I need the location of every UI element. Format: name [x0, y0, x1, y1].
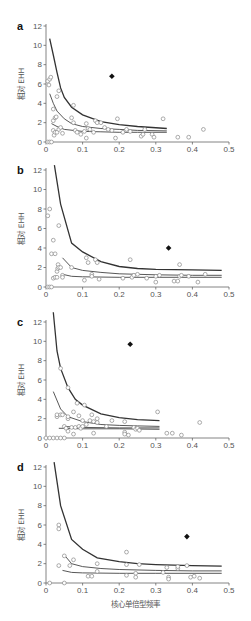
- y-tick-label: 0: [38, 138, 43, 147]
- data-point: [81, 419, 85, 423]
- y-axis-title: 相对 EHH: [16, 68, 26, 100]
- data-point: [103, 126, 107, 130]
- data-point: [83, 403, 87, 407]
- y-tick-label: 4: [38, 540, 43, 549]
- data-point: [88, 419, 92, 423]
- threshold-curve-middle: [64, 555, 221, 571]
- data-point: [90, 574, 94, 578]
- data-point: [202, 127, 206, 131]
- y-tick-label: 8: [38, 205, 43, 214]
- data-point: [187, 135, 191, 139]
- y-tick-label: 2: [38, 559, 43, 568]
- data-point: [44, 436, 48, 440]
- x-tick-label: 0.5: [223, 586, 235, 595]
- x-tick-label: 0: [44, 586, 49, 595]
- data-point: [57, 523, 61, 527]
- threshold-curve-upper: [53, 312, 159, 420]
- data-point: [136, 272, 140, 276]
- data-point: [95, 121, 99, 125]
- x-tick-label: 0.2: [114, 586, 126, 595]
- y-tick-label: 8: [38, 356, 43, 365]
- data-point: [137, 428, 141, 432]
- panel-d: d02468101200.10.20.30.40.5相对 EHH: [16, 461, 235, 595]
- data-point: [192, 574, 196, 578]
- data-point: [72, 121, 76, 125]
- data-point: [161, 571, 165, 575]
- data-point: [180, 433, 184, 437]
- data-point: [57, 527, 61, 531]
- data-point: [48, 436, 52, 440]
- x-tick-label: 0: [44, 290, 49, 299]
- data-point: [66, 386, 70, 390]
- data-point: [110, 129, 114, 133]
- data-point: [99, 121, 103, 125]
- x-tick-label: 0.4: [187, 145, 199, 154]
- data-point: [48, 581, 52, 585]
- highlighted-point-diamond-icon: [184, 534, 190, 540]
- data-point: [47, 83, 51, 87]
- data-point: [68, 564, 72, 568]
- highlighted-point-diamond-icon: [166, 245, 172, 251]
- data-point: [84, 122, 88, 126]
- data-point: [161, 117, 165, 121]
- data-point: [121, 276, 125, 280]
- y-tick-label: 2: [38, 263, 43, 272]
- y-tick-label: 0: [38, 579, 43, 588]
- data-point: [196, 280, 200, 284]
- data-point: [88, 127, 92, 131]
- data-point: [70, 266, 74, 270]
- data-point: [66, 429, 70, 433]
- data-point: [86, 261, 90, 265]
- y-tick-label: 2: [38, 414, 43, 423]
- y-tick-label: 8: [38, 60, 43, 69]
- y-tick-label: 0: [38, 434, 43, 443]
- y-tick-label: 12: [33, 318, 42, 327]
- x-tick-label: 0.1: [77, 145, 89, 154]
- data-point: [123, 420, 127, 424]
- data-point: [50, 252, 54, 256]
- x-tick-label: 0.5: [223, 145, 235, 154]
- x-tick-label: 0.2: [114, 145, 126, 154]
- data-point: [75, 401, 79, 405]
- data-point: [152, 135, 156, 139]
- x-tick-label: 0.3: [150, 441, 162, 450]
- data-point: [106, 127, 110, 131]
- x-tick-label: 0.5: [223, 441, 235, 450]
- data-point: [137, 563, 141, 567]
- y-axis-title: 相对 EHH: [16, 509, 26, 541]
- data-point: [165, 431, 169, 435]
- data-point: [189, 575, 193, 579]
- data-point: [54, 115, 58, 119]
- y-tick-label: 12: [33, 22, 42, 31]
- figure: a02468101200.10.20.30.40.5相对 EHH b024681…: [0, 0, 251, 621]
- x-tick-label: 0.3: [150, 290, 162, 299]
- y-tick-label: 8: [38, 501, 43, 510]
- data-point: [165, 566, 169, 570]
- data-point: [55, 275, 59, 279]
- data-point: [92, 420, 96, 424]
- x-tick-label: 0.3: [150, 145, 162, 154]
- data-point: [79, 132, 83, 136]
- data-point: [53, 252, 57, 256]
- data-point: [125, 563, 129, 567]
- data-point: [125, 573, 129, 577]
- data-point: [132, 273, 136, 277]
- y-tick-label: 4: [38, 244, 43, 253]
- data-point: [62, 436, 66, 440]
- data-point: [75, 130, 79, 134]
- data-point: [59, 126, 63, 130]
- x-tick-label: 0.2: [114, 441, 126, 450]
- x-tick-label: 0.1: [77, 586, 89, 595]
- x-tick-label: 0.5: [223, 290, 235, 299]
- highlighted-point-diamond-icon: [127, 341, 133, 347]
- data-point: [172, 279, 176, 283]
- x-tick-label: 0.4: [187, 290, 199, 299]
- y-tick-label: 6: [38, 80, 43, 89]
- data-point: [95, 421, 99, 425]
- data-point: [83, 130, 87, 134]
- data-point: [92, 130, 96, 134]
- data-point: [125, 550, 129, 554]
- data-point: [83, 278, 87, 282]
- data-point: [61, 275, 65, 279]
- data-point: [70, 426, 74, 430]
